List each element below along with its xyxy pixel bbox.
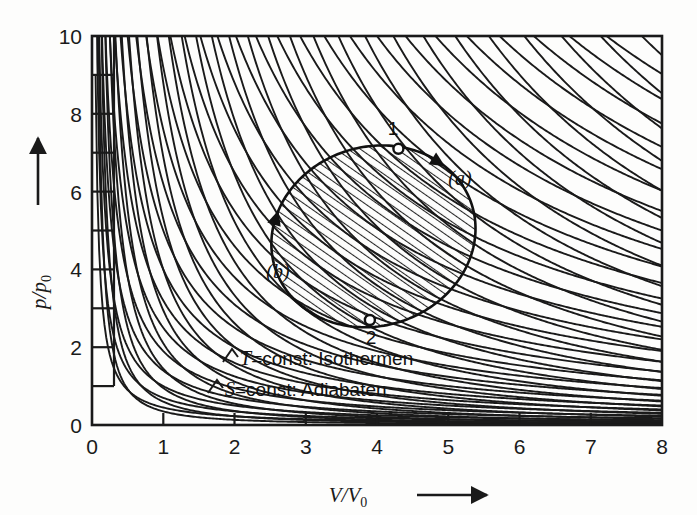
x-axis-title: V/V0 [329, 483, 368, 510]
state-point-2-marker [365, 315, 375, 325]
isotherm-curve [327, 0, 662, 169]
x-tick-label: 8 [656, 435, 668, 458]
x-tick-label: 1 [157, 435, 169, 458]
isotherm-curve [368, 0, 662, 124]
y-axis-title: p/p0 [27, 275, 54, 311]
x-axis-tick-labels: 012345678 [86, 435, 668, 458]
x-tick-label: 4 [371, 435, 383, 458]
y-tick-label: 10 [59, 25, 82, 48]
y-tick-label: 2 [70, 336, 82, 359]
branch-a-label: (a) [448, 167, 472, 190]
y-tick-label: 0 [70, 414, 82, 437]
state-point-2-label: 2 [366, 327, 377, 348]
x-axis-title-subscript: 0 [360, 495, 367, 510]
branch-b-label: (b) [266, 260, 290, 283]
isotherm-legend-annotation: T=const: Isothermen [223, 347, 413, 369]
isotherm-legend-rest: =const: Isothermen [251, 348, 413, 369]
x-axis-title-main: V/V [329, 483, 363, 507]
x-tick-label: 7 [585, 435, 597, 458]
cycle-layer [267, 144, 475, 327]
state-point-1-marker [393, 144, 403, 154]
cycle-hatched-area [271, 145, 475, 327]
y-axis-title-main: p/p [27, 282, 51, 311]
x-tick-label: 3 [300, 435, 312, 458]
branch-b-arrow-icon [267, 210, 280, 226]
y-tick-label: 6 [70, 181, 82, 204]
x-tick-label: 5 [442, 435, 454, 458]
plot-canvas: 012345678 0246810 V/V0 p/p0 T=const: Iso… [0, 0, 697, 515]
state-point-1-label: 1 [388, 118, 399, 139]
adiabat-legend-text: S=const: Adiabaten [225, 378, 387, 400]
y-tick-label: 4 [70, 258, 82, 281]
x-tick-label: 0 [86, 435, 98, 458]
isotherm-legend-text: T=const: Isothermen [240, 347, 413, 369]
adiabat-legend-annotation: S=const: Adiabaten [208, 378, 387, 400]
pv-diagram-figure: 012345678 0246810 V/V0 p/p0 T=const: Iso… [0, 0, 697, 515]
adiabat-symbol: S [225, 378, 235, 400]
adiabat-legend-rest: =const: Adiabaten [235, 379, 387, 400]
y-tick-label: 8 [70, 103, 82, 126]
y-axis-title-subscript: 0 [39, 275, 54, 282]
y-axis-tick-labels: 0246810 [59, 25, 83, 437]
x-tick-label: 2 [229, 435, 241, 458]
adiabat-curve [516, 0, 662, 14]
x-tick-label: 6 [514, 435, 526, 458]
